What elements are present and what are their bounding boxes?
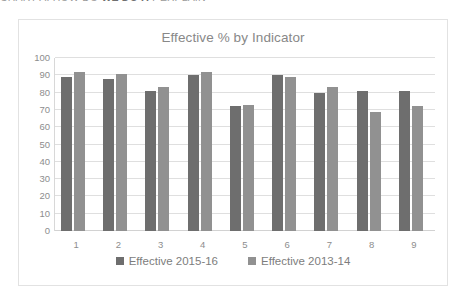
caption-bold: WE DO IT: [101, 0, 150, 3]
x-axis-tick-label: 5: [224, 239, 266, 250]
bar-group: 3: [139, 58, 181, 231]
x-axis-tick-label: 2: [97, 239, 139, 250]
chart-title: Effective % by Indicator: [19, 30, 447, 45]
bar-series1[interactable]: [230, 106, 241, 231]
legend-item[interactable]: Effective 2013-14: [248, 255, 350, 267]
bar-series1[interactable]: [103, 79, 114, 231]
document-caption: CHART A: HOW DO WE DO IT? EXPLAIN: [0, 0, 466, 5]
bar-series2[interactable]: [158, 87, 169, 231]
chart-container: Effective % by Indicator 100908070605040…: [18, 19, 448, 286]
bar-group: 2: [97, 58, 139, 231]
caption-suffix: ? EXPLAIN: [151, 0, 206, 3]
x-axis-tick-label: 4: [182, 239, 224, 250]
bar-group: 6: [266, 58, 308, 231]
x-axis-tick-label: 6: [266, 239, 308, 250]
y-axis-tick-label: 30: [39, 173, 50, 184]
chart-legend: Effective 2015-16Effective 2013-14: [19, 255, 447, 267]
bar-series2[interactable]: [201, 72, 212, 231]
y-axis-tick-label: 60: [39, 121, 50, 132]
bar-series2[interactable]: [327, 87, 338, 231]
y-axis-tick-label: 0: [45, 225, 50, 236]
bar-series2[interactable]: [285, 77, 296, 231]
x-axis-tick-label: 1: [55, 239, 97, 250]
bar-group: 7: [308, 58, 350, 231]
bar-series2[interactable]: [74, 72, 85, 231]
bar-group: 5: [224, 58, 266, 231]
bar-series1[interactable]: [61, 77, 72, 231]
bar-series1[interactable]: [357, 91, 368, 231]
y-axis-tick-label: 90: [39, 69, 50, 80]
caption-prefix: CHART A: HOW DO: [0, 0, 101, 3]
legend-swatch-icon: [248, 257, 256, 265]
legend-label: Effective 2015-16: [129, 255, 218, 267]
bar-series2[interactable]: [412, 106, 423, 231]
plot-area: 1009080706050403020100123456789: [55, 58, 435, 231]
bar-group: 8: [351, 58, 393, 231]
bar-series1[interactable]: [272, 75, 283, 231]
bar-group: 1: [55, 58, 97, 231]
bar-series1[interactable]: [399, 91, 410, 231]
bar-series2[interactable]: [243, 105, 254, 231]
y-axis-tick-label: 10: [39, 207, 50, 218]
legend-swatch-icon: [116, 257, 124, 265]
y-axis-tick-label: 80: [39, 86, 50, 97]
x-axis-tick-label: 8: [351, 239, 393, 250]
bar-group: 9: [393, 58, 435, 231]
bar-series1[interactable]: [145, 91, 156, 231]
bar-series2[interactable]: [116, 74, 127, 231]
x-axis-tick-label: 9: [393, 239, 435, 250]
y-axis-tick-label: 20: [39, 190, 50, 201]
bar-group: 4: [182, 58, 224, 231]
x-axis-tick-label: 7: [308, 239, 350, 250]
legend-item[interactable]: Effective 2015-16: [116, 255, 218, 267]
bar-series1[interactable]: [188, 75, 199, 231]
y-axis-tick-label: 40: [39, 155, 50, 166]
x-axis-tick-label: 3: [139, 239, 181, 250]
y-axis-tick-label: 70: [39, 103, 50, 114]
bar-series2[interactable]: [370, 112, 381, 231]
legend-label: Effective 2013-14: [261, 255, 350, 267]
y-axis-tick-label: 50: [39, 138, 50, 149]
bar-series1[interactable]: [314, 93, 325, 231]
y-axis-tick-label: 100: [34, 52, 50, 63]
